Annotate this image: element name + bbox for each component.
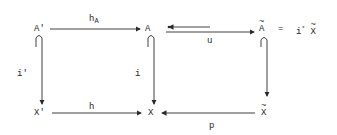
label-i-prime: i': [17, 69, 28, 79]
node-A-tilde: A: [259, 24, 264, 34]
arrow-A-tilde-to-X-tilde: [261, 38, 267, 97]
label-h: h: [89, 102, 94, 112]
pullback-expression: i* X: [296, 24, 316, 37]
label-i: i: [135, 69, 140, 79]
node-A: A: [145, 24, 150, 34]
node-X: X: [148, 108, 153, 118]
node-X-prime: X': [34, 108, 45, 118]
node-A-prime: A': [34, 24, 45, 34]
arrow-i-prime: [36, 36, 42, 105]
arrow-i: [148, 36, 154, 105]
label-h-A: hA: [89, 14, 99, 26]
diagram-arrows: [0, 0, 337, 135]
label-u: u: [207, 36, 212, 46]
label-p: p: [209, 121, 214, 131]
arrow-tail-dot: [168, 26, 171, 29]
equals-sign: =: [278, 24, 283, 34]
node-X-tilde: X: [261, 108, 266, 118]
